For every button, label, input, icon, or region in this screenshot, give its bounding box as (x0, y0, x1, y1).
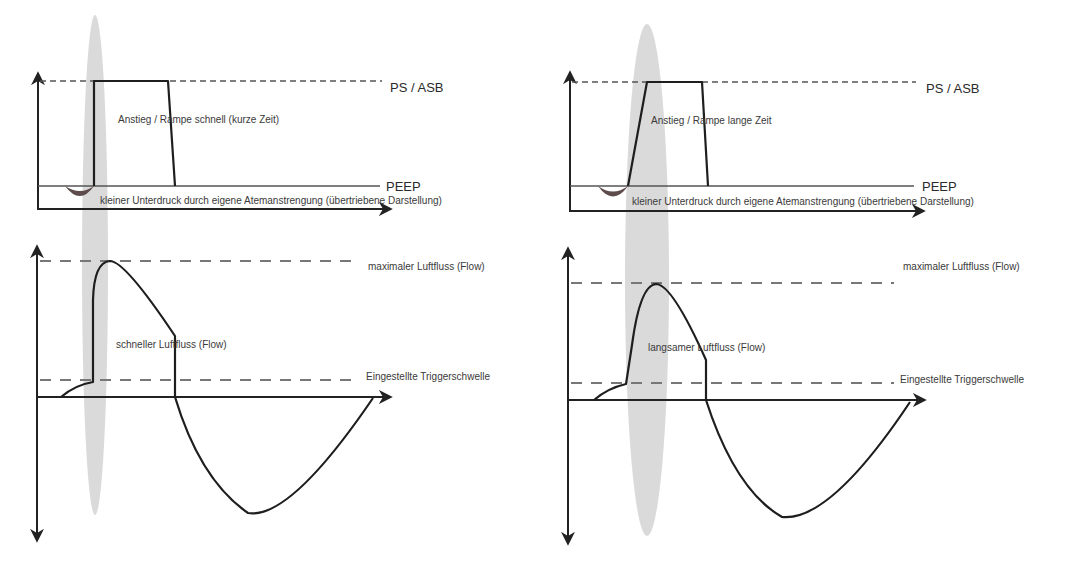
peep-label: PEEP (386, 179, 421, 194)
ps-asb-label: PS / ASB (926, 81, 979, 96)
trigger-label: Eingestellte Triggerschwelle (366, 371, 490, 382)
ventilation-diagram: PS / ASB PEEP Anstieg / Rampe schnell (k… (0, 0, 1067, 566)
max-flow-label: maximaler Luftfluss (Flow) (903, 261, 1020, 272)
peep-label: PEEP (922, 179, 957, 194)
effort-dip (598, 186, 628, 197)
trigger-label: Eingestellte Triggerschwelle (900, 374, 1024, 385)
panel-fast-ramp: PS / ASB PEEP Anstieg / Rampe schnell (k… (37, 15, 490, 540)
flow-speed-label: schneller Luftfluss (Flow) (116, 339, 227, 350)
ramp-label: Anstieg / Rampe schnell (kurze Zeit) (118, 114, 279, 125)
rise-time-highlight (625, 24, 669, 536)
panel-slow-ramp: PS / ASB PEEP Anstieg / Rampe lange Zeit… (568, 24, 1024, 543)
flow-speed-label: langsamer Luftfluss (Flow) (648, 342, 765, 353)
effort-label: kleiner Unterdruck durch eigene Atemanst… (632, 196, 974, 207)
effort-label: kleiner Unterdruck durch eigene Atemanst… (100, 195, 442, 206)
ramp-label: Anstieg / Rampe lange Zeit (651, 115, 772, 126)
max-flow-label: maximaler Luftfluss (Flow) (368, 261, 485, 272)
ps-asb-label: PS / ASB (390, 80, 443, 95)
